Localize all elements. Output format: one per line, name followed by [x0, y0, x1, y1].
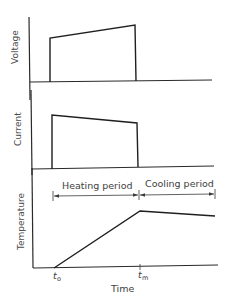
svg-text:m: m: [142, 274, 148, 282]
tm-tick-label: t m: [138, 269, 148, 282]
voltage-axis-label: Voltage: [10, 30, 20, 64]
cooling-arrow-left-icon: [140, 193, 145, 196]
heating-arrow-right-icon: [133, 193, 138, 196]
time-axis-label: Time: [110, 283, 134, 294]
heating-arrow-left-icon: [54, 194, 59, 197]
cooling-arrow-right-icon: [209, 192, 214, 195]
t0-tick-label: t o: [53, 270, 61, 283]
diagram-canvas: Voltage Current Temperature Heating peri…: [0, 0, 228, 300]
svg-text:o: o: [57, 275, 61, 283]
period-annotations: Heating period Cooling period: [53, 178, 215, 201]
heating-arrow-line: [54, 195, 138, 196]
voltage-pulse: [50, 25, 136, 82]
current-y-axis: [31, 90, 32, 175]
current-pulse: [52, 115, 138, 169]
voltage-x-axis: [30, 80, 212, 82]
current-panel: Current: [13, 90, 214, 175]
temperature-y-axis: [32, 168, 33, 268]
temperature-x-axis: [33, 265, 218, 268]
temperature-panel: Temperature Heating period Cooling perio…: [16, 168, 218, 294]
temperature-axis-label: Temperature: [16, 193, 26, 251]
voltage-panel: Voltage: [10, 17, 212, 100]
current-x-axis: [32, 166, 214, 169]
cooling-period-label: Cooling period: [145, 178, 214, 189]
heating-period-label: Heating period: [62, 180, 133, 191]
temperature-curve: [54, 211, 215, 268]
voltage-y-axis: [29, 17, 30, 100]
current-axis-label: Current: [13, 112, 23, 146]
cooling-arrow-line: [140, 194, 214, 195]
